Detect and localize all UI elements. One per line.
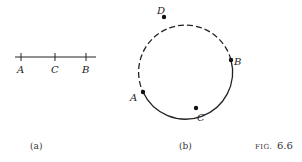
- label-a: A: [16, 64, 24, 75]
- point-a: [141, 90, 145, 94]
- label-c: C: [51, 64, 59, 75]
- dashed-arc: [139, 25, 231, 92]
- point-b: [229, 58, 233, 62]
- label-b: B: [81, 64, 89, 75]
- panel-a-caption: (a): [30, 141, 42, 151]
- panel-b-caption: (b): [179, 141, 192, 151]
- figure-caption: FIG. 6.6: [255, 140, 293, 151]
- solid-arc: [143, 60, 233, 119]
- figure-canvas: A C B (a) D B C A (b) FIG. 6.6: [0, 0, 302, 162]
- label-b: B: [233, 56, 241, 67]
- figure-caption-number: 6.6: [277, 140, 293, 151]
- panel-a: A C B (a): [15, 53, 96, 151]
- label-a: A: [129, 92, 137, 103]
- label-d: D: [156, 5, 165, 16]
- panel-b: D B C A (b): [129, 5, 241, 151]
- point-c: [194, 106, 198, 110]
- figure-caption-prefix: FIG.: [255, 143, 272, 151]
- label-c: C: [197, 112, 205, 123]
